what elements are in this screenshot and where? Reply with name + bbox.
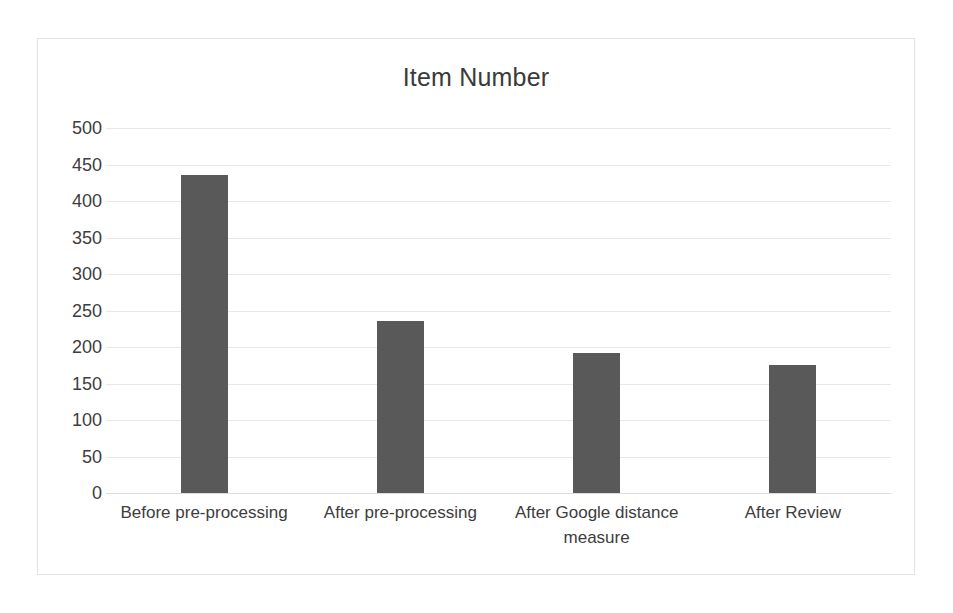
y-axis-tick-label: 500 xyxy=(44,119,102,137)
y-axis-tick-label: 50 xyxy=(44,448,102,466)
y-axis-tick-label: 400 xyxy=(44,192,102,210)
chart-frame: Item Number 5004504003503002502001501005… xyxy=(37,38,915,575)
gridline xyxy=(106,165,891,166)
x-axis-tick-label: Before pre-processing xyxy=(110,501,298,526)
y-axis-tick-label: 200 xyxy=(44,338,102,356)
y-axis-tick-label: 100 xyxy=(44,411,102,429)
x-axis-tick-label: After Review xyxy=(699,501,887,526)
y-axis-tick-label: 150 xyxy=(44,375,102,393)
x-axis-tick-label: After pre-processing xyxy=(306,501,494,526)
bar xyxy=(573,353,620,493)
chart-title: Item Number xyxy=(38,63,914,92)
x-axis-tick-label: After Google distance measure xyxy=(503,501,691,550)
y-axis-tick-labels: 500450400350300250200150100500 xyxy=(38,128,102,493)
bar xyxy=(181,175,228,493)
gridline xyxy=(106,128,891,129)
chart-screenshot: Item Number 5004504003503002502001501005… xyxy=(0,0,953,613)
plot-area xyxy=(106,128,891,493)
bar xyxy=(377,321,424,493)
y-axis-tick-label: 450 xyxy=(44,156,102,174)
y-axis-tick-label: 350 xyxy=(44,229,102,247)
y-axis-tick-label: 0 xyxy=(44,484,102,502)
y-axis-tick-label: 250 xyxy=(44,302,102,320)
x-axis-category-labels: Before pre-processingAfter pre-processin… xyxy=(106,501,891,571)
y-axis-tick-label: 300 xyxy=(44,265,102,283)
gridline xyxy=(106,493,891,494)
bar xyxy=(769,365,816,493)
